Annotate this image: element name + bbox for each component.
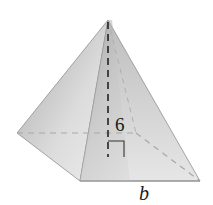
base-edge-label: b xyxy=(139,182,149,204)
pyramid-diagram: 6 b xyxy=(0,0,213,205)
height-label: 6 xyxy=(115,114,125,135)
